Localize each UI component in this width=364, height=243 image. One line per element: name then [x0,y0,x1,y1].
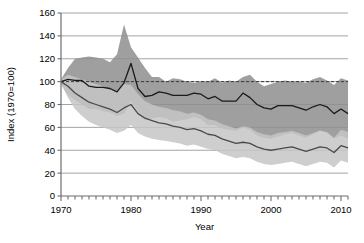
chart-canvas: 0204060801001201401601970198019902000201… [0,0,364,243]
x-axis-title: Year [195,221,214,232]
y-tick-label-120: 120 [39,53,55,64]
x-tick-label-1980: 1980 [120,204,141,215]
y-tick-label-100: 100 [39,76,55,87]
y-tick-label-140: 140 [39,30,55,41]
y-tick-label-0: 0 [50,190,55,201]
x-tick-label-1990: 1990 [190,204,211,215]
y-tick-label-20: 20 [44,168,55,179]
x-tick-label-1970: 1970 [50,204,71,215]
y-tick-label-80: 80 [44,99,55,110]
y-tick-label-40: 40 [44,145,55,156]
chart-figure: 0204060801001201401601970198019902000201… [0,0,364,243]
y-axis-title: Index (1970=100) [5,67,16,142]
x-tick-label-2000: 2000 [260,204,281,215]
y-tick-label-160: 160 [39,7,55,18]
y-tick-label-60: 60 [44,122,55,133]
x-tick-label-2010: 2010 [330,204,351,215]
